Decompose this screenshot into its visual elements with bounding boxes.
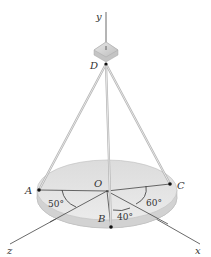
- label-D: D: [89, 60, 98, 71]
- label-C: C: [177, 180, 185, 191]
- label-O: O: [94, 178, 102, 189]
- point-C: [168, 182, 172, 186]
- point-B: [109, 225, 113, 229]
- angle-label-40: 40°: [117, 212, 133, 222]
- label-x: x: [195, 245, 201, 256]
- label-B: B: [97, 213, 105, 224]
- angle-label-60: 60°: [146, 198, 162, 208]
- hanging-box: [94, 42, 118, 62]
- diagram-svg: y D O A C B z x 50° 60° 40°: [0, 0, 211, 257]
- angle-label-50: 50°: [48, 199, 64, 209]
- label-A: A: [24, 185, 32, 196]
- point-O: [106, 190, 108, 192]
- diagram-canvas: y D O A C B z x 50° 60° 40°: [0, 0, 211, 257]
- label-z: z: [6, 245, 13, 256]
- point-D: [104, 62, 107, 65]
- label-y: y: [95, 11, 102, 22]
- point-A: [37, 188, 41, 192]
